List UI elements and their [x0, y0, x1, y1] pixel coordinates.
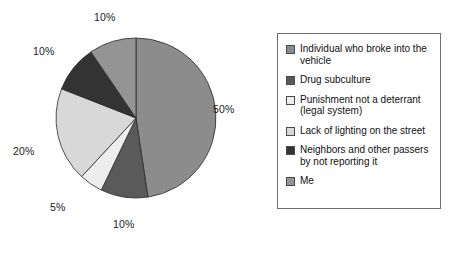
- legend-item: Drug subculture: [286, 74, 434, 86]
- pie-label-20: 20%: [13, 145, 35, 157]
- pie-slice-group: [56, 38, 216, 198]
- pie-chart-figure: 50% 10% 5% 20% 10% 10% Individual who br…: [0, 0, 452, 254]
- legend-item-label: Drug subculture: [300, 74, 371, 86]
- legend-item: Punishment not a deterrant (legal system…: [286, 94, 434, 117]
- legend-swatch-icon: [286, 177, 295, 186]
- pie-slice: [136, 38, 216, 197]
- legend-item-label: Neighbors and other passers by not repor…: [300, 144, 434, 167]
- legend-item-label: Lack of lighting on the street: [300, 125, 425, 137]
- legend-item: Neighbors and other passers by not repor…: [286, 144, 434, 167]
- legend-item-label: Individual who broke into the vehicle: [300, 43, 434, 66]
- legend-swatch-icon: [286, 146, 295, 155]
- pie-label-5: 5%: [50, 201, 66, 213]
- pie-label-50: 50%: [213, 103, 235, 115]
- pie-label-10-bottom: 10%: [113, 218, 135, 230]
- legend-item-label: Punishment not a deterrant (legal system…: [300, 94, 434, 117]
- legend-swatch-icon: [286, 96, 295, 105]
- legend-item: Me: [286, 175, 434, 187]
- legend-item-label: Me: [300, 175, 314, 187]
- legend-item: Individual who broke into the vehicle: [286, 43, 434, 66]
- chart-legend: Individual who broke into the vehicleDru…: [277, 33, 441, 209]
- pie-label-10-upper-left: 10%: [33, 45, 55, 57]
- legend-item: Lack of lighting on the street: [286, 125, 434, 137]
- legend-swatch-icon: [286, 76, 295, 85]
- legend-swatch-icon: [286, 127, 295, 136]
- pie-label-10-top: 10%: [94, 11, 116, 23]
- legend-swatch-icon: [286, 45, 295, 54]
